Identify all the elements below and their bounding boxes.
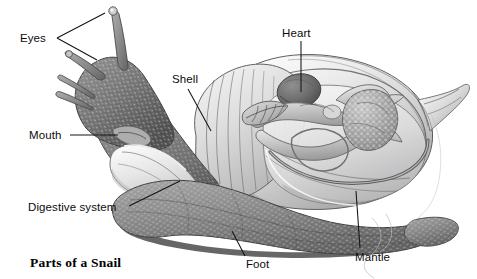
eye-upper-highlight	[110, 8, 113, 11]
snail-anatomy-illustration: Eyes Mouth Digestive system Shell Heart …	[0, 0, 477, 279]
snail-diagram-page: Eyes Mouth Digestive system Shell Heart …	[0, 0, 477, 279]
label-mouth: Mouth	[29, 129, 61, 141]
label-heart: Heart	[282, 27, 311, 39]
label-mantle: Mantle	[355, 251, 390, 263]
organ-sac-small	[323, 105, 341, 119]
eye-lower	[66, 51, 73, 58]
figure-title: Parts of a Snail	[30, 255, 121, 270]
label-shell: Shell	[172, 73, 198, 85]
label-foot: Foot	[246, 258, 270, 270]
label-digestive-system: Digestive system	[28, 201, 117, 213]
label-eyes: Eyes	[20, 32, 46, 44]
